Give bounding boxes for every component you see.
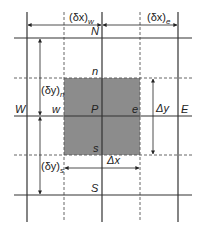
node-label-e: E: [181, 103, 189, 115]
face-label-n: n: [92, 65, 98, 77]
delta-y-label: Δy: [155, 102, 170, 114]
dx-w-label: (δx)w: [69, 11, 95, 26]
node-label-s: S: [91, 182, 99, 194]
delta-x-label: Δx: [106, 154, 120, 166]
dx-e-label: (δx)e: [147, 11, 171, 26]
dy-s-label: (δy)s: [41, 160, 64, 175]
node-label-p: P: [91, 103, 99, 115]
finite-volume-diagram: (δx)w (δx)e (δy)n (δy)s Δy Δx N S W E P …: [0, 0, 200, 235]
face-label-e: e: [132, 103, 138, 115]
dy-n-label: (δy)n: [41, 84, 65, 99]
face-label-s: s: [93, 142, 99, 154]
face-label-w: w: [52, 103, 61, 115]
node-label-n: N: [91, 25, 99, 37]
node-label-w: W: [15, 103, 27, 115]
